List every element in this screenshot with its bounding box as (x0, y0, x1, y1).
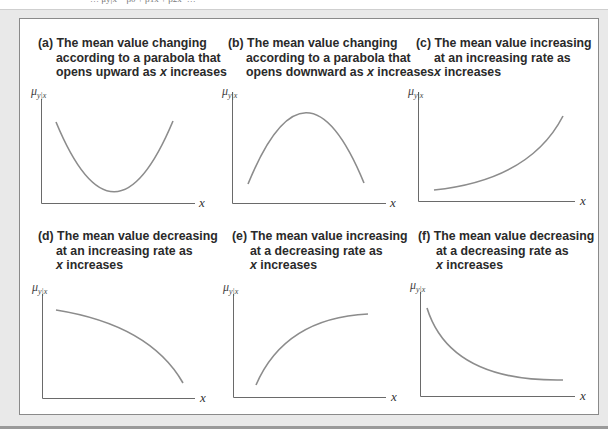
axes-panel-a (42, 99, 196, 204)
y-axis-label-a: μy|x (31, 84, 46, 100)
axes-panel-b (233, 92, 387, 204)
subscript: y|x (228, 91, 237, 100)
x-axis-label-e: x (391, 389, 397, 405)
x-axis-label-b: x (390, 195, 396, 211)
axes (42, 92, 576, 399)
curve-panel-e (256, 314, 368, 385)
curve-panel-c (434, 116, 563, 190)
subscript: y|x (414, 91, 423, 100)
x-axis-label-f: x (580, 388, 586, 404)
subscript: y|x (229, 287, 238, 296)
axes-panel-d (43, 294, 196, 399)
subscript: y|x (38, 287, 47, 296)
curve-panel-b (248, 113, 364, 184)
curve-panel-a (56, 121, 173, 192)
x-axis-label-d: x (200, 390, 206, 406)
y-axis-label-b: μy|x (222, 84, 237, 100)
axes-panel-e (234, 294, 387, 398)
curve-panel-d (56, 310, 183, 383)
y-axis-label-e: μy|x (223, 280, 238, 296)
y-axis-label-f: μy|x (410, 278, 425, 294)
curve-panel-f (427, 308, 563, 380)
y-axis-label-d: μy|x (32, 280, 47, 296)
x-axis-label-a: x (199, 195, 205, 211)
curves (56, 113, 563, 385)
y-axis-label-c: μy|x (408, 84, 423, 100)
subscript: y|x (416, 285, 425, 294)
axes-panel-f (421, 292, 576, 397)
x-axis-label-c: x (580, 193, 586, 209)
axes-panel-c (419, 92, 576, 202)
subscript: y|x (37, 91, 46, 100)
plots-layer (0, 0, 608, 433)
